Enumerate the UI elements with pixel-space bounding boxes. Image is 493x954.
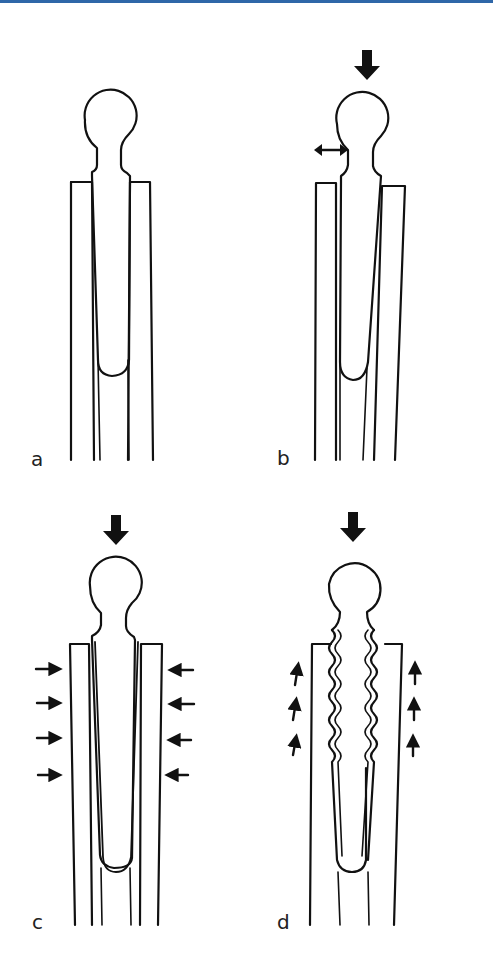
panel-label-c: c <box>32 910 43 934</box>
inward-arrows-left <box>36 669 58 775</box>
panel-d <box>293 512 415 925</box>
panel-a <box>71 90 153 460</box>
diagram-canvas <box>0 0 493 954</box>
down-arrow-icon <box>340 512 366 542</box>
panel-b <box>314 50 405 460</box>
panel-c <box>36 515 194 925</box>
up-arrows-right <box>413 665 415 756</box>
inward-arrows-right <box>169 670 194 775</box>
panel-label-a: a <box>31 447 43 471</box>
panel-label-d: d <box>277 910 290 934</box>
stem-d <box>329 563 381 630</box>
up-arrows-left <box>293 666 298 755</box>
sleeve-right-a <box>130 182 153 460</box>
sleeve-left-inner-a <box>71 182 94 460</box>
down-arrow-icon <box>354 50 380 80</box>
down-arrow-icon <box>103 515 129 545</box>
panel-label-b: b <box>277 446 290 470</box>
